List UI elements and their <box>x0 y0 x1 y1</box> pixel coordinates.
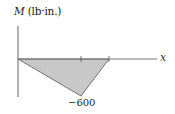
moment-area <box>18 59 109 96</box>
y-axis-variable: M <box>14 5 25 17</box>
y-axis-unit: (lb·in.) <box>25 5 62 17</box>
y-axis-label: M (lb·in.) <box>14 5 61 17</box>
x-axis-label: x <box>160 51 166 64</box>
min-value-label: −600 <box>68 97 95 108</box>
